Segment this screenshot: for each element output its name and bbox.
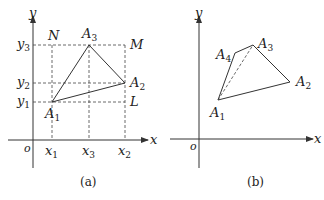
triangle-a1a2a3 [52,45,125,102]
corner-n-label: N [47,28,60,43]
figure: x y o x1 x3 x2 y3 y2 y1 N M L A1 A2 A3 (… [0,0,324,200]
corner-m-label: M [129,37,144,52]
caption-b: (b) [247,175,264,189]
vertex-a1-label-b: A1 [209,105,225,122]
vertex-a4-label-b: A4 [215,47,231,64]
y-axis-label-a: y [28,5,37,20]
panel-b: x y o A1 A2 A3 A4 (b) [170,5,322,189]
y-axis-label-b: y [194,5,203,20]
vertex-a2-label-a: A2 [129,75,145,92]
vertex-a3-label-a: A3 [81,26,97,43]
vertex-a1-label-a: A1 [44,106,60,123]
origin-label-b: o [190,140,197,153]
panel-a: x y o x1 x3 x2 y3 y2 y1 N M L A1 A2 A3 (… [8,5,158,189]
corner-l-label: L [129,94,139,109]
x2-label: x2 [118,143,131,160]
dashed-guides-a [33,45,125,140]
caption-a: (a) [80,175,97,189]
y1-label: y1 [16,93,30,110]
origin-label-a: o [24,142,31,155]
x1-label: x1 [45,143,58,160]
x3-label: x3 [82,143,95,160]
x-axis-label-a: x [150,132,158,147]
vertex-a2-label-b: A2 [295,74,311,91]
x-axis-label-b: x [314,131,322,146]
vertex-a3-label-b: A3 [257,36,273,53]
y2-label: y2 [16,74,30,91]
y3-label: y3 [16,36,30,53]
